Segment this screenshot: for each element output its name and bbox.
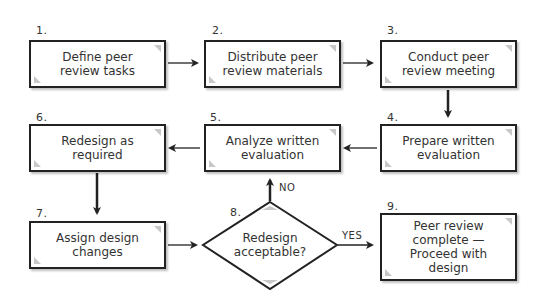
step-number-7: 7.	[36, 207, 48, 220]
step-number-8: 8.	[230, 206, 242, 219]
step-label-9: Peer review complete — Proceed with desi…	[410, 219, 487, 275]
step-label-5: Analyze written evaluation	[226, 134, 320, 162]
step-label-3: Conduct peer review meeting	[402, 50, 495, 78]
edge-label-no: NO	[279, 182, 295, 193]
step-label-7: Assign design changes	[56, 231, 139, 259]
step-box-7: Assign design changes	[29, 221, 166, 269]
step-number-5: 5.	[210, 111, 222, 124]
step-box-3: Conduct peer review meeting	[380, 40, 517, 88]
step-box-2: Distribute peer review materials	[204, 40, 341, 88]
step-label-2: Distribute peer review materials	[223, 50, 323, 78]
edge-label-yes: YES	[342, 230, 362, 241]
step-box-4: Prepare written evaluation	[380, 124, 517, 172]
step-number-3: 3.	[387, 24, 399, 37]
step-box-6: Redesign as required	[29, 124, 166, 172]
step-box-9: Peer review complete — Proceed with desi…	[380, 213, 517, 281]
step-label-4: Prepare written evaluation	[402, 134, 494, 162]
step-label-1: Define peer review tasks	[60, 50, 135, 78]
step-box-5: Analyze written evaluation	[204, 124, 341, 172]
step-label-6: Redesign as required	[61, 134, 133, 162]
step-number-2: 2.	[212, 24, 224, 37]
step-box-1: Define peer review tasks	[29, 40, 166, 88]
step-number-1: 1.	[36, 24, 48, 37]
step-number-4: 4.	[387, 111, 399, 124]
decision-label-8: Redesign acceptable?	[220, 231, 320, 259]
step-number-6: 6.	[36, 111, 48, 124]
step-number-9: 9.	[387, 200, 399, 213]
